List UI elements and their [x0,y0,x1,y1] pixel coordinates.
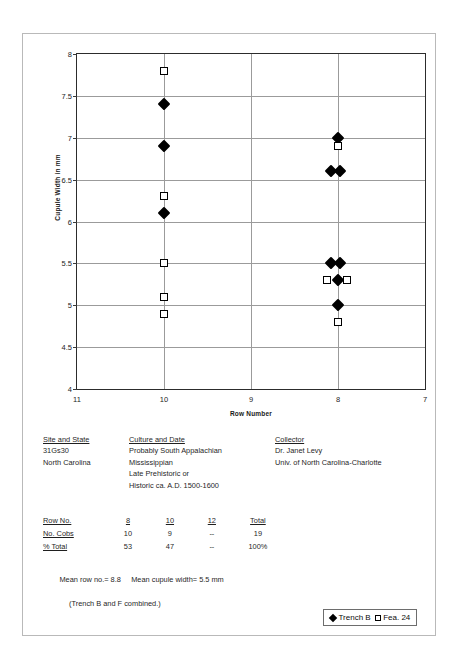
x-tick-label: 11 [73,395,81,404]
table-header-row: Row No. 8 10 12 Total [43,515,283,528]
data-point-square [160,67,168,75]
table-col-header-8: 8 [107,515,149,528]
table-row: % Total 53 47 -- 100% [43,541,283,554]
y-tick-label: 4 [68,385,72,394]
legend-label: Trench B [339,613,371,622]
data-point-square [323,276,331,284]
table-col-header-total: Total [233,515,283,528]
data-point-diamond [334,165,347,178]
counts-table: Row No. 8 10 12 Total No. Cobs 10 9 -- 1… [43,515,283,554]
data-point-square [160,192,168,200]
y-tick-mark [73,54,77,55]
collector-column: Collector Dr. Janet Levy Univ. of North … [275,434,440,468]
mean-row-number: Mean row no.= 8.8 [59,575,120,584]
scatter-chart: Cupule Width in mm 44.555.566.577.581110… [23,34,437,424]
x-tick-label: 7 [423,395,427,404]
table-cell: -- [191,528,233,541]
table-cell: 47 [149,541,191,554]
data-point-square [343,276,351,284]
collector-institution: Univ. of North Carolina-Charlotte [275,457,440,468]
open-square-icon [375,615,381,621]
y-tick-mark [73,96,77,97]
x-gridline [338,54,339,389]
y-tick-label: 4.5 [62,343,72,352]
data-point-square [334,318,342,326]
plot-area: 44.555.566.577.581110987 [76,53,426,390]
data-point-square [160,293,168,301]
y-tick-mark [73,222,77,223]
y-tick-label: 5.5 [62,259,72,268]
chart-legend: Trench B Fea. 24 [323,609,417,626]
culture-line-3: Late Prehistoric or [129,468,279,479]
culture-line-1: Probably South Appalachian [129,445,279,456]
legend-entry-trench-b: Trench B [330,613,371,622]
y-tick-label: 5 [68,301,72,310]
data-point-square [334,142,342,150]
y-tick-mark [73,305,77,306]
y-tick-mark [73,138,77,139]
y-tick-mark [73,180,77,181]
y-tick-label: 6 [68,217,72,226]
x-axis-title: Row Number [76,410,426,417]
data-point-diamond [158,207,171,220]
table-cell: 100% [233,541,283,554]
table-row: No. Cobs 10 9 -- 19 [43,528,283,541]
table-row-label: No. Cobs [43,528,107,541]
y-tick-label: 6.5 [62,175,72,184]
table-row-label: % Total [43,541,107,554]
y-axis-title: Cupule Width in mm [54,128,61,248]
table-cell: 19 [233,528,283,541]
table-cell: -- [191,541,233,554]
table-cell: 9 [149,528,191,541]
table-cell: 10 [107,528,149,541]
means-note: (Trench B and F combined.) [43,598,224,610]
filled-diamond-icon [329,613,337,621]
collector-heading: Collector [275,434,440,445]
x-tick-label: 10 [160,395,168,404]
y-tick-label: 7 [68,133,72,142]
data-point-diamond [334,257,347,270]
table-row-label-header: Row No. [43,515,107,528]
culture-and-date-column: Culture and Date Probably South Appalach… [129,434,279,491]
means-block: Mean row no.= 8.8 Mean cupule width= 5.5… [43,562,224,610]
y-tick-mark [73,347,77,348]
y-tick-mark [73,389,77,390]
table-cell: 53 [107,541,149,554]
culture-and-date-heading: Culture and Date [129,434,279,445]
y-tick-label: 8 [68,50,72,59]
legend-label: Fea. 24 [383,613,410,622]
x-tick-label: 9 [249,395,253,404]
table-col-header-10: 10 [149,515,191,528]
data-point-square [160,259,168,267]
x-tick-label: 8 [336,395,340,404]
y-tick-mark [73,263,77,264]
legend-entry-fea-24: Fea. 24 [375,613,411,622]
y-tick-label: 7.5 [62,91,72,100]
data-point-diamond [158,98,171,111]
data-point-square [160,310,168,318]
culture-line-4: Historic ca. A.D. 1500-1600 [129,480,279,491]
x-gridline [251,54,252,389]
culture-line-2: Mississippian [129,457,279,468]
data-point-diamond [332,299,345,312]
mean-cupule-width: Mean cupule width= 5.5 mm [131,575,224,584]
table-col-header-12: 12 [191,515,233,528]
data-point-diamond [158,140,171,153]
scanned-page-frame: Cupule Width in mm 44.555.566.577.581110… [22,33,436,636]
collector-name: Dr. Janet Levy [275,445,440,456]
means-line: Mean row no.= 8.8 Mean cupule width= 5.5… [43,562,224,598]
